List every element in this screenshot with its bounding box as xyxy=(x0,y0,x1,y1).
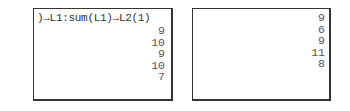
command-line: )→L1:sum(L1)→L2(1) xyxy=(37,13,150,25)
result-list: 9 6 9 11 8 xyxy=(311,12,325,70)
calculator-screen-right: 9 6 9 11 8 xyxy=(192,8,331,101)
calculator-screen-left: )→L1:sum(L1)→L2(1) 9 10 9 10 7 xyxy=(33,8,173,101)
result-value: 9 xyxy=(311,12,325,24)
result-value: 9 xyxy=(151,25,165,37)
result-value: 8 xyxy=(311,58,325,70)
result-value: 7 xyxy=(151,71,165,83)
result-list: 9 10 9 10 7 xyxy=(151,25,165,83)
